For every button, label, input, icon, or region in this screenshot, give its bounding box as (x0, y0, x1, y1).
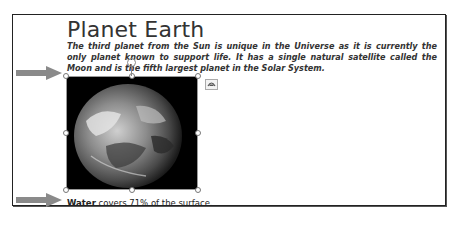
caption-bold-word: Water (67, 198, 96, 208)
layout-options-icon (207, 80, 216, 87)
intro-paragraph: The third planet from the Sun is unique … (67, 41, 437, 74)
resize-handle-middle-left[interactable] (63, 130, 69, 136)
resize-handle-bottom-right[interactable] (195, 187, 201, 193)
resize-handle-middle-right[interactable] (195, 130, 201, 136)
image-caption: Water covers 71% of the surface. (67, 198, 213, 208)
caption-text: covers 71% of the surface. (96, 198, 213, 208)
resize-handle-top-left[interactable] (63, 73, 69, 79)
resize-handle-bottom-left[interactable] (63, 187, 69, 193)
rotate-handle-icon[interactable] (127, 58, 136, 67)
earth-globe-icon (66, 76, 198, 190)
arrow-pointing-right-icon (16, 66, 62, 80)
earth-image[interactable] (66, 76, 198, 190)
arrow-pointing-right-icon (16, 193, 62, 207)
resize-handle-top-center[interactable] (129, 73, 135, 79)
document-title: Planet Earth (67, 18, 204, 42)
resize-handle-top-right[interactable] (195, 73, 201, 79)
resize-handle-bottom-center[interactable] (129, 187, 135, 193)
layout-options-button[interactable] (205, 79, 218, 90)
